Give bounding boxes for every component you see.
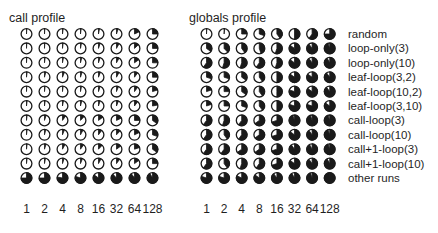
pie-wedge — [129, 173, 140, 184]
call-pie-cell — [93, 173, 104, 184]
globals-pie-cell — [236, 115, 247, 126]
globals-x-tick-label: 1 — [203, 202, 210, 216]
row-label: call-loop(10) — [348, 129, 411, 141]
globals-pie-cell — [219, 29, 230, 40]
globals-pie-cell — [219, 129, 230, 140]
globals-pie-cell — [289, 158, 300, 169]
call-x-tick-label: 1 — [23, 202, 30, 216]
globals-pie-cell — [236, 144, 247, 155]
globals-pie-cell — [201, 72, 212, 83]
globals-pie-cell — [236, 173, 247, 184]
row-label: call+1-loop(10) — [348, 158, 425, 170]
call-pie-cell — [93, 86, 104, 97]
call-pie-cell — [147, 158, 158, 169]
pie-wedge — [307, 43, 318, 54]
globals-pie-cell — [272, 72, 283, 83]
call-pie-cell — [93, 101, 104, 112]
globals-pie-cell — [254, 72, 265, 83]
call-pie-cell — [75, 86, 86, 97]
row-label: random — [348, 28, 387, 40]
globals-pie-cell — [272, 43, 283, 54]
globals-pie-cell — [324, 101, 335, 112]
call-pie-cell — [75, 158, 86, 169]
call-pie-cell — [39, 29, 50, 40]
globals-pie-cell — [236, 158, 247, 169]
globals-x-tick-label: 32 — [288, 202, 302, 216]
call-pie-cell — [147, 57, 158, 68]
pie-wedge — [289, 144, 300, 155]
pie-wedge — [289, 173, 300, 184]
call-pie-cell — [111, 101, 122, 112]
call-pie-cell — [93, 129, 104, 140]
globals-pie-cell — [254, 144, 265, 155]
call-pie-cell — [111, 144, 122, 155]
call-pie-cell — [129, 115, 140, 126]
call-x-tick-label: 8 — [77, 202, 84, 216]
globals-pie-cell — [272, 173, 283, 184]
globals-pie-cell — [324, 115, 335, 126]
globals-pie-cell — [289, 43, 300, 54]
globals-pie-cell — [324, 43, 335, 54]
call-pie-cell — [129, 57, 140, 68]
pie-wedge — [324, 158, 335, 169]
call-x-tick-label: 2 — [41, 202, 48, 216]
call-pie-cell — [75, 144, 86, 155]
globals-pie-cell — [272, 144, 283, 155]
globals-pie-cell — [324, 158, 335, 169]
globals-pie-cell — [324, 129, 335, 140]
globals-pie-cell — [307, 86, 318, 97]
globals-pie-cell — [201, 144, 212, 155]
call-pie-cell — [129, 86, 140, 97]
call-pie-cell — [111, 57, 122, 68]
call-pie-cell — [39, 43, 50, 54]
globals-pie-cell — [289, 115, 300, 126]
globals-pie-cell — [201, 115, 212, 126]
call-pie-cell — [21, 29, 32, 40]
call-pie-cell — [57, 158, 68, 169]
globals-pie-cell — [254, 43, 265, 54]
globals-pie-cell — [324, 173, 335, 184]
call-pie-cell — [111, 43, 122, 54]
pie-wedge — [307, 57, 318, 68]
call-pie-cell — [129, 173, 140, 184]
globals-pie-cell — [219, 173, 230, 184]
row-label: leaf-loop(10,2) — [348, 86, 422, 98]
pie-grid-figure: call profile 1248163264128 globals profi… — [0, 0, 438, 233]
globals-pie-cell — [324, 72, 335, 83]
pie-wedge — [324, 43, 335, 54]
pie-wedge — [307, 144, 318, 155]
globals-pie-cell — [201, 29, 212, 40]
call-pie-cell — [147, 101, 158, 112]
globals-pie-cell — [219, 43, 230, 54]
pie-wedge — [324, 144, 335, 155]
globals-pie-cell — [324, 57, 335, 68]
globals-x-tick-label: 16 — [270, 202, 284, 216]
globals-pie-cell — [289, 144, 300, 155]
call-pie-cell — [75, 129, 86, 140]
globals-pie-cell — [272, 115, 283, 126]
globals-pie-cell — [324, 29, 335, 40]
globals-pie-cell — [254, 101, 265, 112]
call-pie-cell — [21, 101, 32, 112]
call-pie-cell — [129, 144, 140, 155]
call-pie-cell — [129, 43, 140, 54]
call-x-tick-label: 32 — [110, 202, 124, 216]
call-pie-cell — [57, 72, 68, 83]
call-pie-cell — [57, 43, 68, 54]
call-pie-cell — [129, 129, 140, 140]
globals-pie-cell — [219, 158, 230, 169]
globals-pie-cell — [289, 29, 300, 40]
call-pie-cell — [21, 129, 32, 140]
call-pie-cell — [147, 29, 158, 40]
globals-pie-cell — [272, 29, 283, 40]
call-pie-cell — [93, 57, 104, 68]
globals-pie-cell — [307, 72, 318, 83]
row-label: leaf-loop(3,10) — [348, 100, 422, 112]
call-pie-cell — [39, 173, 50, 184]
call-pie-cell — [129, 72, 140, 83]
globals-pie-cell — [272, 158, 283, 169]
globals-pie-cell — [307, 129, 318, 140]
pie-wedge — [111, 173, 122, 184]
call-pie-cell — [111, 72, 122, 83]
globals-x-tick-label: 64 — [305, 202, 319, 216]
